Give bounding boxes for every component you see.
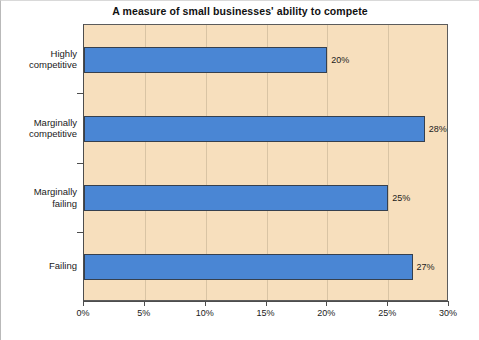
x-axis-tick-label: 30% bbox=[439, 308, 457, 318]
y-axis-category-labels: HighlycompetitiveMarginallycompetitiveMa… bbox=[1, 1, 83, 340]
category-label-line: Failing bbox=[7, 261, 77, 273]
x-axis-tick-label: 15% bbox=[256, 308, 274, 318]
y-axis-tick bbox=[77, 163, 83, 164]
y-axis-tick bbox=[77, 232, 83, 233]
y-axis-tick bbox=[77, 93, 83, 94]
bar-chart-figure: A measure of small businesses' ability t… bbox=[0, 0, 479, 340]
category-label-line: Marginally bbox=[7, 116, 77, 128]
x-axis-tick bbox=[266, 301, 267, 306]
category-label-line: Highly bbox=[7, 47, 77, 59]
x-axis-tick bbox=[83, 301, 84, 306]
bar-value-label: 27% bbox=[417, 262, 435, 272]
x-axis-tick-label: 25% bbox=[378, 308, 396, 318]
x-axis-tick bbox=[448, 301, 449, 306]
x-axis-tick bbox=[144, 301, 145, 306]
y-axis-category-label: Marginallycompetitive bbox=[7, 116, 83, 139]
category-label-line: Marginally bbox=[7, 186, 77, 198]
bar-value-label: 25% bbox=[392, 193, 410, 203]
x-axis-tick bbox=[205, 301, 206, 306]
x-axis-tick-label: 0% bbox=[76, 308, 89, 318]
y-axis-category-label: Marginallyfailing bbox=[7, 186, 83, 209]
bar[interactable] bbox=[84, 254, 413, 280]
x-axis-tick-label: 20% bbox=[317, 308, 335, 318]
bars-layer bbox=[84, 25, 447, 300]
bar-value-label: 20% bbox=[331, 55, 349, 65]
category-label-line: competitive bbox=[7, 59, 77, 71]
x-axis-tick-label: 10% bbox=[196, 308, 214, 318]
bar[interactable] bbox=[84, 185, 388, 211]
category-label-line: competitive bbox=[7, 128, 77, 140]
bar[interactable] bbox=[84, 116, 425, 142]
y-axis-category-label: Failing bbox=[7, 261, 83, 273]
y-axis-line bbox=[83, 24, 84, 302]
bar[interactable] bbox=[84, 47, 327, 73]
category-label-line: failing bbox=[7, 197, 77, 209]
plot-area bbox=[83, 24, 448, 301]
x-axis-tick-label: 5% bbox=[137, 308, 150, 318]
bar-value-label: 28% bbox=[429, 124, 447, 134]
x-axis-tick bbox=[387, 301, 388, 306]
x-axis-tick bbox=[326, 301, 327, 306]
y-axis-category-label: Highlycompetitive bbox=[7, 47, 83, 70]
